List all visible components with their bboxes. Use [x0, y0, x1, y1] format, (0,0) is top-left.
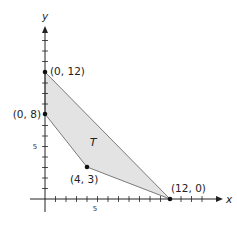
vertex-0-12: (0, 12)	[43, 65, 85, 77]
x-axis-label: x	[225, 193, 233, 205]
y-tick-label-5: 5	[33, 143, 37, 151]
vertex-label-12-0: (12, 0)	[171, 182, 206, 194]
vertex-label-0-8: (0, 8)	[13, 108, 41, 120]
y-axis-label: y	[41, 10, 49, 22]
vertex-label-4-3: (4, 3)	[70, 173, 98, 185]
x-axis: 5 x	[30, 193, 233, 213]
vertex-0-8: (0, 8)	[13, 108, 48, 120]
vertex-label-0-12: (0, 12)	[50, 65, 85, 77]
x-axis-arrow-icon	[216, 196, 223, 202]
y-axis-arrow-icon	[42, 26, 48, 33]
x-tick-label-5: 5	[93, 205, 97, 213]
vertex-12-0: (12, 0)	[168, 182, 206, 201]
region-t	[45, 72, 170, 199]
graph-canvas: 5 x 5 y (0, 12) (0, 8)	[0, 0, 237, 225]
